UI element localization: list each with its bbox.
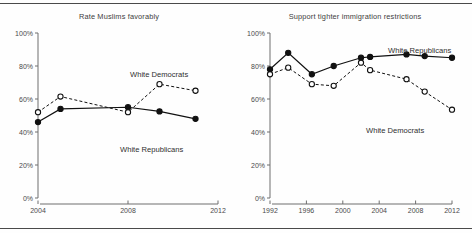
data-point-white-republicans	[286, 50, 291, 55]
data-point-white-democrats	[422, 89, 427, 94]
data-point-white-republicans	[157, 109, 162, 114]
y-axis-tick-label: 80%	[19, 63, 33, 70]
data-point-white-democrats	[157, 82, 162, 87]
x-axis-tick-label: 1992	[262, 207, 278, 214]
data-point-white-democrats	[358, 60, 363, 65]
x-axis-tick-label: 2012	[210, 207, 226, 214]
series-label-white-democrats: White Democrats	[366, 126, 424, 135]
series-label-white-republicans: White Republicans	[388, 46, 451, 55]
figure-bottom-rule	[0, 228, 472, 229]
chart-plot-area: 0%20%40%60%80%100%1992199620002004200820…	[240, 8, 470, 223]
x-axis-tick-label: 2004	[371, 207, 387, 214]
chart-panel-support-tighter-immigration-restrictions: Support tighter immigration restrictions…	[240, 8, 470, 223]
data-point-white-democrats	[35, 110, 40, 115]
y-axis-tick-label: 60%	[251, 96, 265, 103]
x-axis-tick-label: 2012	[444, 207, 460, 214]
y-axis-tick-label: 100%	[15, 30, 33, 37]
chart-panel-rate-muslims-favorably: Rate Muslims favorably 0%20%40%60%80%100…	[6, 8, 232, 223]
x-axis-tick-label: 2008	[120, 207, 136, 214]
data-point-white-democrats	[368, 68, 373, 73]
y-axis-tick-label: 80%	[251, 63, 265, 70]
y-axis-tick-label: 0%	[23, 195, 33, 202]
figure-top-rule	[0, 3, 472, 4]
x-axis-tick-label: 2004	[30, 207, 46, 214]
data-point-white-republicans	[193, 116, 198, 121]
data-point-white-democrats	[267, 72, 272, 77]
y-axis-tick-label: 0%	[255, 195, 265, 202]
data-point-white-democrats	[449, 107, 454, 112]
data-point-white-republicans	[368, 54, 373, 59]
data-point-white-republicans	[331, 63, 336, 68]
data-point-white-democrats	[331, 83, 336, 88]
data-point-white-republicans	[35, 120, 40, 125]
data-point-white-democrats	[404, 77, 409, 82]
data-point-white-republicans	[449, 55, 454, 60]
data-point-white-republicans	[309, 72, 314, 77]
x-axis-tick-label: 2008	[408, 207, 424, 214]
x-axis-tick-label: 1996	[299, 207, 315, 214]
figure-container: Rate Muslims favorably 0%20%40%60%80%100…	[0, 0, 472, 233]
data-point-white-democrats	[193, 88, 198, 93]
y-axis-tick-label: 40%	[19, 129, 33, 136]
x-axis-tick-label: 2000	[335, 207, 351, 214]
y-axis-tick-label: 60%	[19, 96, 33, 103]
y-axis-tick-label: 20%	[19, 162, 33, 169]
data-point-white-democrats	[58, 94, 63, 99]
series-line-white-democrats	[270, 63, 452, 110]
y-axis-tick-label: 100%	[247, 30, 265, 37]
chart-plot-area: 0%20%40%60%80%100%200420082012	[6, 8, 232, 223]
data-point-white-democrats	[286, 65, 291, 70]
y-axis-tick-label: 40%	[251, 129, 265, 136]
data-point-white-democrats	[309, 82, 314, 87]
series-label-white-republicans: White Republicans	[120, 145, 183, 154]
data-point-white-republicans	[58, 106, 63, 111]
y-axis-tick-label: 20%	[251, 162, 265, 169]
series-label-white-democrats: White Democrats	[130, 70, 188, 79]
data-point-white-democrats	[125, 110, 130, 115]
